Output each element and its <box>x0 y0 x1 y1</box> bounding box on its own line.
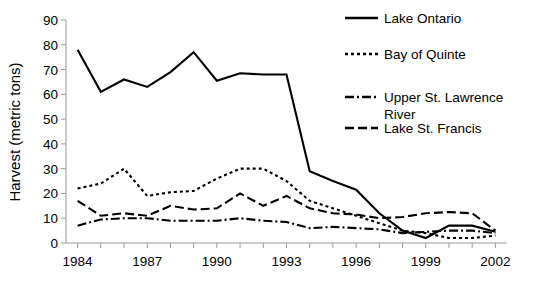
x-tick-label: 2002 <box>480 254 510 269</box>
y-tick-label: 40 <box>43 137 58 152</box>
x-tick-label: 1996 <box>341 254 371 269</box>
legend-label-2-cont: River <box>384 107 416 122</box>
x-tick-label: 1987 <box>132 254 162 269</box>
x-axis: 1984198719901993199619992002 <box>63 243 511 269</box>
series-line-0 <box>78 50 496 238</box>
y-tick-label: 30 <box>43 162 58 177</box>
series-line-1 <box>78 169 496 238</box>
y-axis: 0102030405060708090 <box>43 13 66 251</box>
y-tick-label: 60 <box>43 87 58 102</box>
x-tick-label: 1984 <box>63 254 94 269</box>
y-tick-label: 90 <box>43 13 58 28</box>
legend-label-1: Bay of Quinte <box>384 47 466 62</box>
y-axis-title: Harvest (metric tons) <box>6 62 23 201</box>
legend-label-3: Lake St. Francis <box>384 121 482 136</box>
chart-legend: Lake OntarioBay of QuinteUpper St. Lawre… <box>345 11 503 136</box>
legend-label-2: Upper St. Lawrence <box>384 90 503 105</box>
data-series-group <box>78 50 496 238</box>
y-axis-title-text: Harvest (metric tons) <box>6 62 23 201</box>
x-tick-label: 1990 <box>202 254 232 269</box>
series-line-3 <box>78 193 496 230</box>
chart-canvas: Harvest (metric tons) 010203040506070809… <box>0 0 551 297</box>
x-tick-label: 1993 <box>271 254 301 269</box>
legend-label-0: Lake Ontario <box>384 11 461 26</box>
y-tick-label: 20 <box>43 186 58 201</box>
y-tick-label: 70 <box>43 63 58 78</box>
y-tick-label: 80 <box>43 38 58 53</box>
x-tick-label: 1999 <box>411 254 441 269</box>
series-line-2 <box>78 218 496 233</box>
y-tick-label: 0 <box>50 236 58 251</box>
y-tick-label: 50 <box>43 112 58 127</box>
harvest-line-chart: Harvest (metric tons) 010203040506070809… <box>0 0 551 297</box>
y-tick-label: 10 <box>43 211 58 226</box>
